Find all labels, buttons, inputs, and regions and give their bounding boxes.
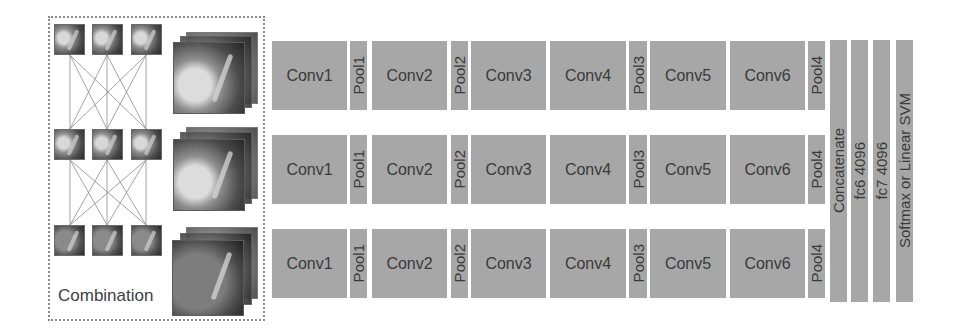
classifier-block: Softmax or Linear SVM: [896, 40, 913, 302]
conv3-block: Conv3: [471, 229, 546, 298]
ct-patch: [92, 24, 123, 55]
ct-patch: [92, 225, 123, 256]
fc6-block: fc6 4096: [851, 40, 868, 302]
ct-patch: [131, 129, 162, 160]
pool3-block: Pool3: [629, 229, 647, 298]
pool4-block: Pool4: [808, 229, 825, 298]
pool3-block: Pool3: [629, 135, 647, 204]
combination-label: Combination: [58, 286, 153, 306]
conv1-block: Conv1: [272, 135, 347, 204]
ct-patch: [92, 129, 123, 160]
pool4-block: Pool4: [808, 41, 825, 110]
ct-patch: [54, 129, 85, 160]
pool3-block: Pool3: [629, 41, 647, 110]
pool1-block: Pool1: [350, 229, 367, 298]
concatenate-block: Concatenate: [830, 40, 847, 302]
pool2-block: Pool2: [451, 229, 468, 298]
conv1-block: Conv1: [272, 41, 347, 110]
conv5-block: Conv5: [650, 229, 726, 298]
conv3-block: Conv3: [471, 41, 546, 110]
conv4-block: Conv4: [550, 229, 626, 298]
ct-patch: [54, 225, 85, 256]
conv1-block: Conv1: [272, 229, 347, 298]
pool1-block: Pool1: [350, 135, 367, 204]
conv4-block: Conv4: [550, 41, 626, 110]
ct-patch: [131, 225, 162, 256]
ct-patch: [131, 24, 162, 55]
conv5-block: Conv5: [650, 41, 726, 110]
ct-patch: [54, 24, 85, 55]
conv2-block: Conv2: [372, 41, 447, 110]
conv2-block: Conv2: [372, 135, 447, 204]
pool2-block: Pool2: [451, 135, 468, 204]
conv6-block: Conv6: [730, 229, 805, 298]
conv4-block: Conv4: [550, 135, 626, 204]
pool4-block: Pool4: [808, 135, 825, 204]
conv6-block: Conv6: [730, 41, 805, 110]
conv3-block: Conv3: [471, 135, 546, 204]
pool1-block: Pool1: [350, 41, 367, 110]
conv6-block: Conv6: [730, 135, 805, 204]
conv2-block: Conv2: [372, 229, 447, 298]
fc7-block: fc7 4096: [873, 40, 890, 302]
pool2-block: Pool2: [451, 41, 468, 110]
conv5-block: Conv5: [650, 135, 726, 204]
